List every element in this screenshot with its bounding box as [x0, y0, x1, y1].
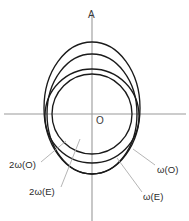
index-surface-figure: A O 2ω(O) 2ω(E) ω(O) ω(E): [0, 0, 189, 221]
curve-label-two-omega-o: 2ω(O): [9, 160, 36, 170]
leader-omega-o: [133, 149, 155, 165]
leader-omega-e: [117, 158, 142, 192]
optic-axis-label: A: [88, 10, 95, 20]
curve-label-omega-e: ω(E): [143, 192, 163, 202]
leader-two-omega-e: [61, 139, 80, 187]
origin-label: O: [96, 116, 104, 126]
curve-label-omega-o: ω(O): [157, 165, 179, 175]
leader-lines-group: [41, 139, 155, 192]
curve-label-two-omega-e: 2ω(E): [29, 187, 55, 197]
